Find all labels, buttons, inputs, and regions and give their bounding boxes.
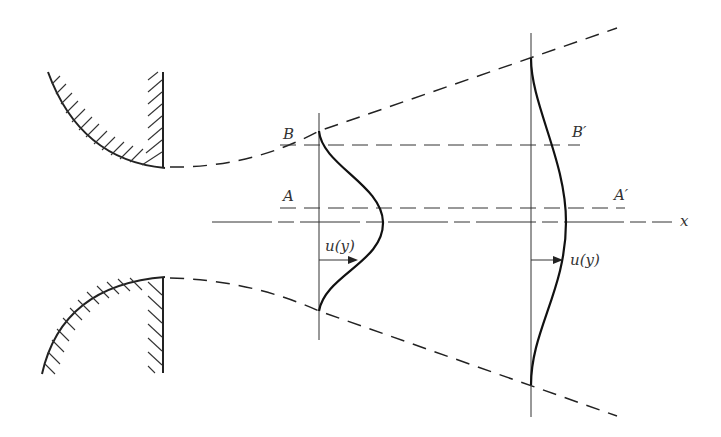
velocity-label-2: u(y) [570, 251, 600, 269]
label-B-prime: B′ [571, 123, 587, 141]
velocity-label-1: u(y) [325, 237, 355, 255]
label-B: B [282, 125, 294, 143]
jet-boundary-upper [170, 28, 617, 167]
label-A: A [281, 187, 294, 205]
jet-boundary-lower [170, 278, 617, 416]
x-axis-label: x [680, 212, 689, 230]
velocity-profile-1: u(y) [319, 113, 383, 340]
label-A-prime: A′ [612, 186, 629, 204]
nozzle-lower-wall [42, 277, 165, 374]
velocity-profile-2: u(y) [531, 33, 600, 417]
jet-diagram: x B B′ A A′ u(y) u(y) [0, 0, 721, 437]
nozzle-upper-wall [48, 72, 165, 168]
